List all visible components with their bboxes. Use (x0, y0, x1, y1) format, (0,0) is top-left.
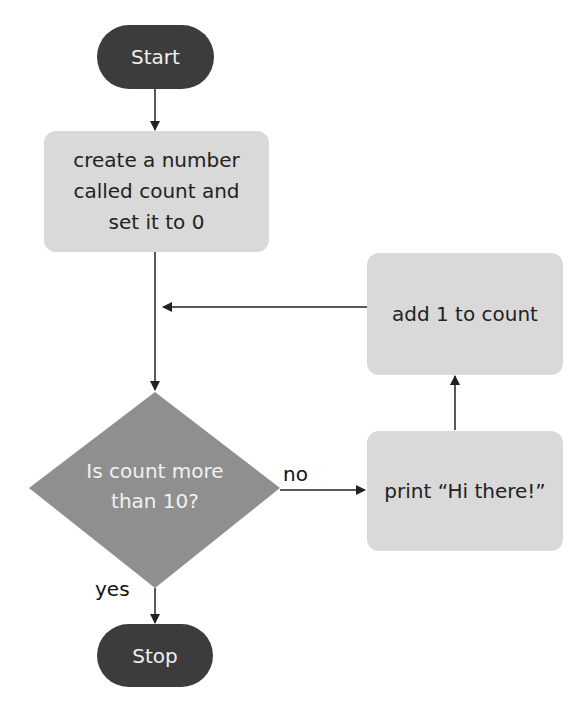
stop-label: Stop (132, 644, 177, 668)
increment-process-node: add 1 to count (367, 253, 563, 375)
print-process-node: print “Hi there!” (367, 431, 563, 551)
start-node: Start (97, 25, 214, 89)
init-line-3: set it to 0 (109, 207, 205, 238)
print-label: print “Hi there!” (384, 476, 545, 507)
decision-text: Is count more than 10? (55, 456, 255, 516)
init-process-node: create a number called count and set it … (44, 131, 269, 252)
decision-line-1: Is count more (55, 456, 255, 486)
init-line-1: create a number (73, 145, 240, 176)
stop-node: Stop (97, 624, 213, 687)
decision-line-2: than 10? (55, 486, 255, 516)
increment-label: add 1 to count (392, 299, 538, 330)
no-label: no (283, 462, 308, 486)
init-line-2: called count and (73, 176, 239, 207)
start-label: Start (131, 45, 180, 69)
yes-label: yes (95, 577, 130, 601)
